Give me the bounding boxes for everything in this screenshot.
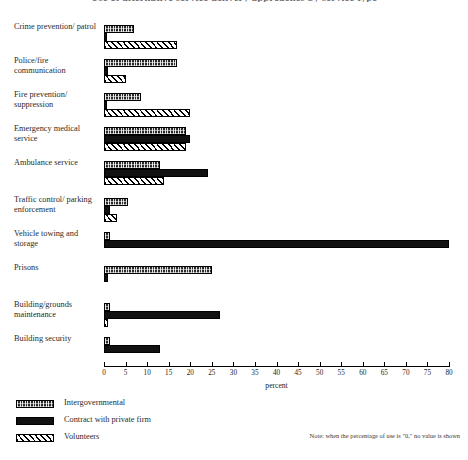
bar-intergov [104,303,110,311]
bar-intergov [104,266,212,274]
axis-tick [233,362,234,367]
bar-volunteers [104,319,108,327]
category-label: Traffic control/ parking enforcement [14,195,98,216]
axis-tick [449,362,450,367]
chart-row: Ambulance service [0,158,468,191]
legend-item: Contract with private firm [16,414,236,431]
legend-label: Contract with private firm [64,415,151,424]
axis-tick-label: 60 [359,369,366,377]
axis-tick [147,362,148,367]
plot-area: Crime prevention/ patrolPolice/fire comm… [0,18,468,366]
legend-item: Volunteers [16,431,236,448]
bar-volunteers [104,214,117,222]
chart-row: Police/fire communication [0,56,468,89]
bar-intergov [104,59,177,67]
legend-label: Intergovernmental [64,398,125,407]
x-axis-title: percent [104,381,449,390]
category-label: Vehicle towing and storage [14,229,98,250]
bar-intergov [104,93,141,101]
axis-tick [298,362,299,367]
axis-tick [277,362,278,367]
axis-tick [212,362,213,367]
axis-tick-label: 65 [381,369,388,377]
bar-contract [104,206,110,214]
bar-intergov [104,127,186,135]
category-label: Building security [14,334,98,344]
axis-tick-label: 5 [124,369,128,377]
axis-tick [320,362,321,367]
bar-intergov [104,198,128,206]
chart-title: Use of alternative service delivery appr… [0,0,468,2]
axis-tick-label: 20 [187,369,194,377]
legend-label: Volunteers [64,432,99,441]
bar-contract [104,311,220,319]
bar-volunteers [104,143,186,151]
axis-tick [384,362,385,367]
bar-contract [104,169,208,177]
axis-tick-label: 0 [102,369,106,377]
chart-row: Crime prevention/ patrol [0,22,468,55]
chart-footnote: Note: when the percentage of use is "0,"… [310,432,460,439]
chart-row: Emergency medical service [0,124,468,157]
bar-contract [104,67,108,75]
bar-contract [104,240,449,248]
axis-tick-label: 40 [273,369,280,377]
bar-volunteers [104,177,164,185]
bar-intergov [104,232,110,240]
bar-intergov [104,25,134,33]
bar-contract [104,33,107,41]
axis-tick [341,362,342,367]
legend: IntergovernmentalContract with private f… [16,397,236,448]
bar-volunteers [104,41,177,49]
bar-intergov [104,161,160,169]
axis-tick-label: 10 [144,369,151,377]
chart-row: Prisons [0,263,468,296]
axis-tick-label: 15 [165,369,172,377]
bar-contract [104,274,108,282]
axis-tick [169,362,170,367]
axis-tick-label: 25 [208,369,215,377]
axis-tick-label: 80 [445,369,452,377]
category-label: Crime prevention/ patrol [14,22,98,32]
category-label: Prisons [14,263,98,273]
bar-contract [104,345,160,353]
axis-tick [104,362,105,367]
axis-tick [406,362,407,367]
legend-swatch-contract [16,417,54,425]
bar-volunteers [104,75,126,83]
category-label: Police/fire communication [14,56,98,77]
category-label: Ambulance service [14,158,98,168]
bar-contract [104,101,107,109]
chart-row: Traffic control/ parking enforcement [0,195,468,228]
category-label: Emergency medical service [14,124,98,145]
axis-tick-label: 50 [316,369,323,377]
chart-root: Use of alternative service delivery appr… [0,0,468,460]
axis-tick-label: 45 [294,369,301,377]
legend-item: Intergovernmental [16,397,236,414]
axis-tick-label: 70 [402,369,409,377]
axis-tick [363,362,364,367]
axis-tick [190,362,191,367]
axis-tick [126,362,127,367]
axis-tick [255,362,256,367]
legend-swatch-volunteers [16,434,54,442]
bar-contract [104,135,190,143]
bar-volunteers [104,109,190,117]
chart-row: Vehicle towing and storage [0,229,468,262]
axis-tick-label: 35 [251,369,258,377]
legend-swatch-intergov [16,400,54,408]
axis-tick-label: 30 [230,369,237,377]
category-label: Fire prevention/ suppression [14,90,98,111]
chart-row: Fire prevention/ suppression [0,90,468,123]
axis-tick [427,362,428,367]
chart-row: Building/grounds maintenance [0,300,468,333]
axis-tick-label: 75 [424,369,431,377]
category-label: Building/grounds maintenance [14,300,98,321]
x-axis: 05101520253035404550556065707580 [104,366,449,367]
axis-tick-label: 55 [338,369,345,377]
bar-intergov [104,337,110,345]
